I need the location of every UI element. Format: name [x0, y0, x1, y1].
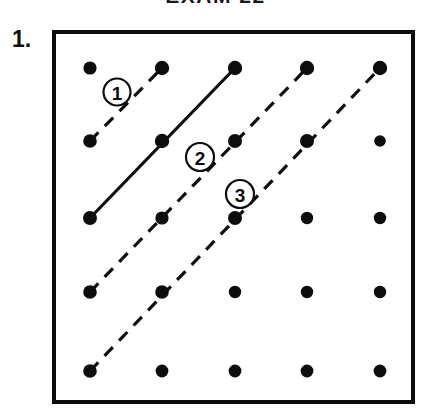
worksheet-page: EXAM 22 1. 123 [0, 0, 431, 418]
page-title: EXAM 22 [0, 0, 431, 8]
geoboard-frame [52, 30, 415, 404]
problem-number-label: 1. [12, 28, 31, 51]
